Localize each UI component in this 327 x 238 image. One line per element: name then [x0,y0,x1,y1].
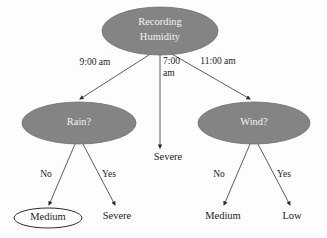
node-recording-humidity-label-line2: Humidity [140,31,181,42]
leaf-severe-left: Severe [103,210,132,221]
leaf-severe-center: Severe [154,151,183,162]
leaf-medium-left: Medium [30,211,66,222]
leaf-medium-right: Medium [205,210,241,221]
edge-label-9am: 9:00 am [80,57,111,67]
decision-tree-diagram: Recording Humidity Rain? Wind? 9:00 am 7… [0,0,327,238]
tree-canvas: Recording Humidity Rain? Wind? 9:00 am 7… [0,0,327,238]
node-recording-humidity-label-line1: Recording [138,16,182,27]
edge-label-rain-yes: Yes [102,169,116,179]
edge-label-wind-no: No [213,169,225,179]
edge-rain-no-to-medium [49,144,75,205]
edge-label-wind-yes: Yes [277,169,291,179]
node-wind-label: Wind? [240,116,268,127]
edge-wind-no-to-medium [224,144,250,205]
edge-label-11am: 11:00 am [200,56,236,66]
edge-label-7am-line2: am [163,68,175,78]
edge-label-rain-no: No [40,169,52,179]
node-rain-label: Rain? [67,116,92,127]
leaf-low-right: Low [282,210,302,221]
edge-label-7am-line1: 7:00 [163,56,180,66]
